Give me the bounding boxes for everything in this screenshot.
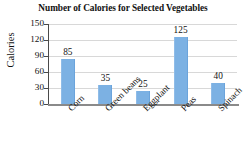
chart-title: Number of Calories for Selected Vegetabl… <box>0 2 246 14</box>
bar-value-label: 35 <box>85 73 125 83</box>
bar <box>61 59 75 104</box>
y-tick-label: 150 <box>0 19 44 28</box>
y-tick-label: 30 <box>0 83 44 92</box>
bar-value-label: 125 <box>161 25 201 35</box>
y-tick-label: 90 <box>0 51 44 60</box>
gridline <box>49 40 237 41</box>
bar-value-label: 85 <box>48 47 88 57</box>
bar <box>174 37 188 104</box>
y-tick-label: 60 <box>0 67 44 76</box>
plot-area <box>49 24 237 104</box>
bar-chart: Number of Calories for Selected Vegetabl… <box>0 0 246 161</box>
bar-value-label: 40 <box>198 71 238 81</box>
gridline <box>49 24 237 25</box>
y-tick-label: 120 <box>0 35 44 44</box>
y-tick-label: 0 <box>0 99 44 108</box>
